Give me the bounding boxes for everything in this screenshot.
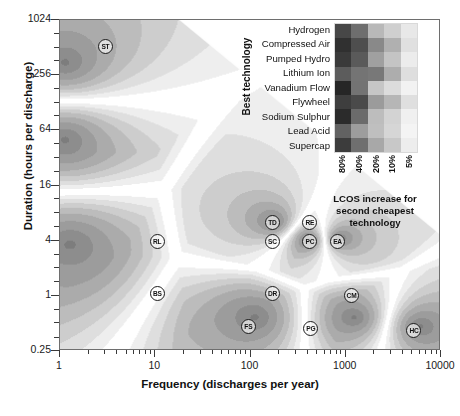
x-minor-tick — [88, 350, 89, 354]
x-minor-tick — [411, 350, 412, 354]
legend-row-label-7: Lead Acid — [234, 124, 330, 138]
legend-inset: Best technology HydrogenCompressed AirPu… — [226, 21, 428, 211]
legend-cell-r7-c3 — [384, 124, 400, 138]
x-minor-tick — [336, 350, 337, 354]
x-minor-tick — [228, 350, 229, 354]
legend-cell-r6-c3 — [384, 109, 400, 123]
x-tick-label: 100 — [220, 360, 280, 371]
legend-cell-r2-c1 — [351, 52, 367, 66]
legend-row-label-8: Supercap — [234, 139, 330, 153]
x-minor-tick — [183, 350, 184, 354]
x-minor-tick — [402, 350, 403, 354]
legend-cell-r1-c3 — [384, 38, 400, 52]
x-tick — [250, 350, 251, 357]
x-minor-tick — [139, 350, 140, 354]
legend-cell-r1-c0 — [335, 38, 351, 52]
x-minor-tick — [150, 350, 151, 354]
legend-cell-r2-c4 — [401, 52, 417, 66]
legend-cell-r5-c3 — [384, 95, 400, 109]
x-minor-tick — [221, 350, 222, 354]
y-tick — [51, 74, 59, 75]
legend-cell-r7-c4 — [401, 124, 417, 138]
x-minor-tick — [431, 350, 432, 354]
x-minor-tick — [200, 350, 201, 354]
legend-cell-r8-c4 — [401, 138, 417, 152]
x-minor-tick — [104, 350, 105, 354]
x-tick — [345, 350, 346, 357]
legend-cell-r8-c2 — [368, 138, 384, 152]
y-tick-label: 1024 — [7, 13, 51, 24]
x-tick-label: 10 — [124, 360, 184, 371]
y-tick — [51, 240, 59, 241]
legend-cell-r3-c3 — [384, 67, 400, 81]
legend-cell-r3-c2 — [368, 67, 384, 81]
legend-column-label-3: 10% — [387, 155, 401, 189]
x-minor-tick — [340, 350, 341, 354]
x-minor-tick — [373, 350, 374, 354]
x-tick — [440, 350, 441, 357]
y-tick-label: 1 — [7, 289, 51, 300]
x-tick-label: 10000 — [410, 360, 460, 371]
x-axis-title: Frequency (discharges per year) — [0, 378, 460, 390]
legend-cell-r1-c4 — [401, 38, 417, 52]
chart-marker-td[interactable]: TD — [265, 215, 280, 230]
legend-row-label-0: Hydrogen — [234, 23, 330, 37]
x-minor-tick — [212, 350, 213, 354]
legend-cell-r6-c0 — [335, 109, 351, 123]
x-minor-tick — [126, 350, 127, 354]
x-minor-tick — [145, 350, 146, 354]
legend-row-label-4: Vanadium Flow — [234, 81, 330, 95]
legend-column-labels: 80%40%20%10%5% — [334, 155, 418, 189]
legend-cell-r4-c0 — [335, 81, 351, 95]
legend-cell-r3-c1 — [351, 67, 367, 81]
x-minor-tick — [116, 350, 117, 354]
legend-cell-r7-c0 — [335, 124, 351, 138]
legend-cell-r2-c2 — [368, 52, 384, 66]
legend-column-label-4: 5% — [404, 155, 418, 189]
legend-cell-r3-c4 — [401, 67, 417, 81]
y-tick — [51, 19, 59, 20]
y-tick — [51, 295, 59, 296]
legend-cell-r0-c4 — [401, 24, 417, 38]
legend-cell-r4-c2 — [368, 81, 384, 95]
x-minor-tick — [235, 350, 236, 354]
legend-cell-r5-c1 — [351, 95, 367, 109]
legend-column-label-2: 20% — [371, 155, 385, 189]
legend-cell-r6-c4 — [401, 109, 417, 123]
legend-cell-r0-c1 — [351, 24, 367, 38]
legend-cell-r8-c3 — [384, 138, 400, 152]
x-minor-tick — [240, 350, 241, 354]
x-minor-tick — [324, 350, 325, 354]
x-minor-tick — [425, 350, 426, 354]
legend-cell-r1-c1 — [351, 38, 367, 52]
x-minor-tick — [133, 350, 134, 354]
legend-cell-r6-c2 — [368, 109, 384, 123]
legend-cell-r5-c2 — [368, 95, 384, 109]
legend-cell-r6-c1 — [351, 109, 367, 123]
x-minor-tick — [330, 350, 331, 354]
legend-row-label-5: Flywheel — [234, 95, 330, 109]
y-tick-label: 256 — [7, 68, 51, 79]
x-minor-tick — [278, 350, 279, 354]
y-tick-label: 0.25 — [7, 344, 51, 355]
legend-cell-r8-c1 — [351, 138, 367, 152]
legend-heatmap-grid — [334, 23, 418, 153]
legend-cell-r5-c0 — [335, 95, 351, 109]
legend-cell-r1-c2 — [368, 38, 384, 52]
legend-row-label-6: Sodium Sulphur — [234, 110, 330, 124]
x-tick — [154, 350, 155, 357]
x-minor-tick — [295, 350, 296, 354]
legend-cell-r2-c3 — [384, 52, 400, 66]
legend-cell-r8-c0 — [335, 138, 351, 152]
legend-cell-r4-c4 — [401, 81, 417, 95]
chart-marker-rl[interactable]: RL — [150, 234, 165, 249]
legend-cell-r7-c1 — [351, 124, 367, 138]
legend-cell-r4-c1 — [351, 81, 367, 95]
y-tick — [51, 129, 59, 130]
x-minor-tick — [436, 350, 437, 354]
x-tick — [59, 350, 60, 357]
y-tick — [51, 350, 59, 351]
y-tick-label: 16 — [7, 179, 51, 190]
legend-row-label-2: Pumped Hydro — [234, 52, 330, 66]
legend-column-label-0: 80% — [337, 155, 351, 189]
